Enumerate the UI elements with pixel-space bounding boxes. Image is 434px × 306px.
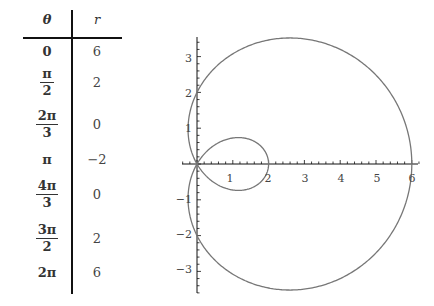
x-tick-label: 4 xyxy=(338,172,345,185)
x-tick-label: 5 xyxy=(374,172,381,185)
y-tick-label: −1 xyxy=(176,193,192,206)
axes xyxy=(182,37,419,293)
y-tick-label: 1 xyxy=(185,122,192,135)
y-tick-label: −2 xyxy=(176,228,192,241)
y-tick-label: 2 xyxy=(185,87,192,100)
x-tick-label: 6 xyxy=(409,172,416,185)
y-tick-label: −3 xyxy=(176,263,192,276)
x-tick-label: 3 xyxy=(302,172,309,185)
polar-plot: 1 2 3 4 5 6 1 2 3 −1 −2 −3 xyxy=(0,0,434,306)
x-tick-label: 2 xyxy=(265,172,272,185)
x-tick-label: 1 xyxy=(227,172,234,185)
y-tick-label: 3 xyxy=(185,52,192,65)
